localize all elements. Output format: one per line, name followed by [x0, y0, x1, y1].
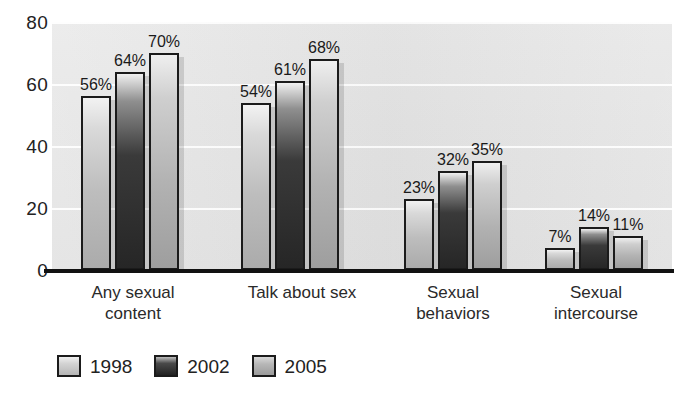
bar-shadow	[502, 165, 507, 270]
category-label-any-sexual-content: Any sexual content	[62, 282, 204, 324]
category-label-line-1: Sexual	[520, 282, 672, 303]
bar-value-label: 64%	[107, 53, 153, 69]
bar-1998-talk-about-sex[interactable]	[241, 103, 271, 270]
bar-shadow	[339, 63, 344, 270]
bar-2002-talk-about-sex[interactable]	[275, 81, 305, 270]
y-axis: 80 60 40 20 0	[0, 0, 48, 293]
bar-value-label: 7%	[537, 229, 583, 245]
legend-swatch-2002-icon	[154, 355, 178, 377]
bar-chart: 80 60 40 20 0 56%64%70%54%61%68%23%32%35…	[0, 0, 683, 393]
bar-value-label: 54%	[233, 84, 279, 100]
category-label-line-2: content	[62, 303, 204, 324]
legend-label-2005: 2005	[285, 357, 327, 376]
bar-value-label: 70%	[141, 34, 187, 50]
bar-2005-any-sexual-content[interactable]	[149, 53, 179, 270]
bar-shadow	[643, 240, 648, 270]
bar-2002-sexual-intercourse[interactable]	[579, 227, 609, 270]
bar-shadow	[179, 57, 184, 270]
bar-value-label: 35%	[464, 142, 510, 158]
category-label-line-1: Talk about sex	[218, 282, 386, 303]
legend-swatch-1998-icon	[57, 355, 81, 377]
legend: 1998 2002 2005	[57, 355, 349, 377]
bar-2005-talk-about-sex[interactable]	[309, 59, 339, 270]
y-tick-label-20: 20	[4, 199, 48, 218]
legend-item-2005[interactable]: 2005	[252, 355, 327, 377]
legend-swatch-2005-icon	[252, 355, 276, 377]
y-tick-label-40: 40	[4, 137, 48, 156]
legend-label-2002: 2002	[187, 357, 229, 376]
bar-2002-sexual-behaviors[interactable]	[438, 171, 468, 270]
bar-1998-sexual-behaviors[interactable]	[404, 199, 434, 270]
category-label-sexual-intercourse: Sexual intercourse	[520, 282, 672, 324]
category-label-sexual-behaviors: Sexual behaviors	[380, 282, 526, 324]
category-label-line-1: Any sexual	[62, 282, 204, 303]
bar-1998-sexual-intercourse[interactable]	[545, 248, 575, 270]
legend-label-1998: 1998	[90, 357, 132, 376]
category-label-talk-about-sex: Talk about sex	[218, 282, 386, 303]
y-tick-label-0: 0	[4, 261, 48, 280]
legend-item-1998[interactable]: 1998	[57, 355, 132, 377]
gridline-80	[52, 22, 672, 24]
bar-value-label: 56%	[73, 77, 119, 93]
bar-value-label: 23%	[396, 180, 442, 196]
category-label-line-2: intercourse	[520, 303, 672, 324]
legend-item-2002[interactable]: 2002	[154, 355, 229, 377]
bar-1998-any-sexual-content[interactable]	[81, 96, 111, 270]
category-label-line-1: Sexual	[380, 282, 526, 303]
bar-2002-any-sexual-content[interactable]	[115, 72, 145, 270]
bar-2005-sexual-behaviors[interactable]	[472, 161, 502, 270]
category-label-line-2: behaviors	[380, 303, 526, 324]
y-tick-label-60: 60	[4, 75, 48, 94]
bar-value-label: 61%	[267, 62, 313, 78]
y-tick-label-80: 80	[4, 13, 48, 32]
bar-value-label: 68%	[301, 40, 347, 56]
bar-2005-sexual-intercourse[interactable]	[613, 236, 643, 270]
bar-value-label: 11%	[605, 217, 651, 233]
x-axis-line	[44, 269, 674, 273]
